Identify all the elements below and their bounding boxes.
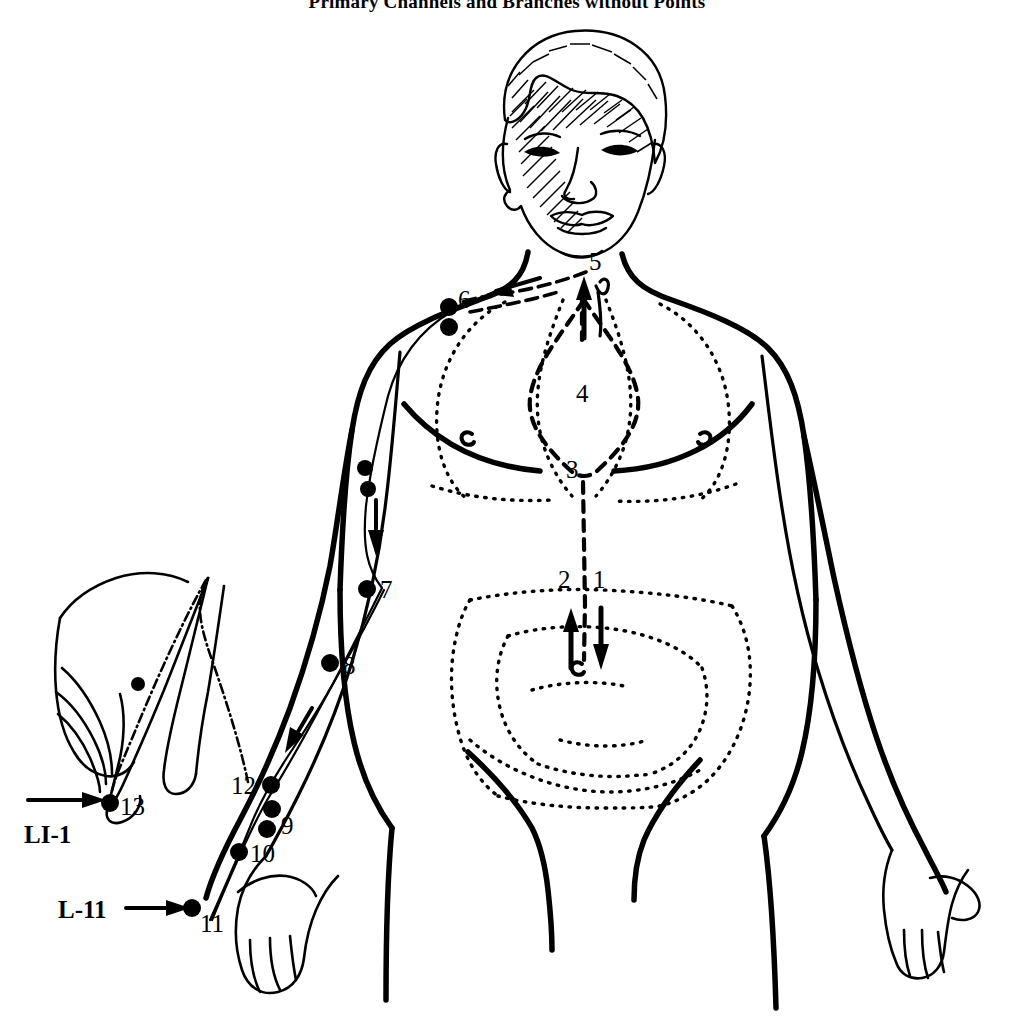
organs-group	[432, 294, 750, 808]
left-nipple	[462, 432, 474, 444]
small-intestine-coil-5	[532, 683, 624, 690]
point-dot-7	[358, 580, 376, 598]
label-number-6: 6	[458, 286, 471, 313]
arrows-group	[28, 272, 609, 916]
label-number-4: 4	[576, 380, 589, 407]
label-number-2: 2	[558, 566, 571, 593]
inset-middle-finger	[164, 578, 209, 794]
label-number-9: 9	[281, 812, 294, 839]
left-eyebrow	[525, 133, 560, 139]
label-number-7: 7	[380, 576, 393, 603]
torso-right-outline	[622, 254, 816, 600]
right-hand-group	[883, 850, 979, 978]
point-dot-6b	[440, 318, 458, 336]
lower-abdomen-dotted	[470, 740, 700, 792]
point-dot-arm-2	[360, 481, 376, 497]
point-dot-12	[262, 776, 280, 794]
nostrils	[562, 182, 596, 203]
right-hand-outline	[883, 850, 968, 978]
trachea-line	[598, 292, 601, 336]
arrow-abdomen-down	[593, 608, 609, 670]
anatomical-figure: 1 2 3 4 5 6 7 8 9 10 11 12 13 LI-1 L-11	[0, 0, 1014, 1024]
right-chest-dotted	[660, 304, 729, 500]
left-hand-group	[236, 856, 338, 993]
arrow-li1-callout	[28, 792, 106, 808]
callout-l11-label: L-11	[58, 896, 107, 923]
right-arm-outer	[804, 436, 946, 892]
inset-finger-5	[58, 714, 100, 792]
branch-to-hand-inset	[200, 578, 248, 782]
right-finger-2	[922, 930, 928, 978]
diaphragm-line	[432, 486, 552, 500]
head-group	[495, 31, 666, 258]
lower-lip	[558, 228, 606, 234]
inset-hand-back	[60, 573, 188, 618]
small-intestine-coil-2	[497, 636, 538, 764]
right-eye	[601, 145, 638, 156]
body-outline-group	[206, 252, 980, 1008]
label-number-11: 11	[200, 910, 224, 937]
nose	[564, 148, 578, 199]
right-finger-1	[904, 930, 910, 976]
inset-finger-4	[56, 692, 106, 784]
small-intestine-coil-4	[538, 764, 650, 777]
right-nipple	[698, 432, 710, 444]
left-leg-outline	[386, 828, 392, 1000]
callout-li1-label: LI-1	[24, 821, 71, 848]
right-arm-inner	[762, 356, 892, 850]
label-number-12: 12	[231, 772, 256, 799]
left-finger-2	[270, 938, 280, 990]
callouts-group: LI-1 L-11	[24, 821, 107, 923]
left-finger-3	[290, 936, 296, 980]
figure-svg: 1 2 3 4 5 6 7 8 9 10 11 12 13 LI-1 L-11	[0, 0, 1014, 1024]
large-intestine-bottom	[498, 796, 660, 808]
label-number-8: 8	[343, 652, 356, 679]
point-dot-9	[258, 820, 276, 838]
point-dot-6a	[440, 298, 458, 316]
point-dot-13-mid	[131, 677, 145, 691]
acupoints-group	[101, 298, 458, 917]
arrow-l11-callout	[126, 900, 190, 916]
inset-finger-3	[62, 668, 112, 774]
label-number-3: 3	[566, 456, 579, 483]
point-dot-wrist-1	[263, 800, 281, 818]
hand-inset-group	[55, 573, 224, 823]
arrow-abdomen-up	[563, 608, 579, 668]
right-eyebrow	[601, 131, 640, 136]
label-number-5: 5	[589, 248, 602, 275]
torso-left-outline	[340, 252, 528, 590]
point-dot-arm-1	[357, 460, 373, 476]
point-dot-11	[183, 899, 201, 917]
right-leg-outline	[764, 836, 776, 1008]
diaphragm-line-right	[614, 484, 736, 501]
pectoral-line-right	[614, 404, 752, 471]
large-intestine-outline	[451, 600, 498, 796]
label-number-13: 13	[120, 793, 145, 820]
label-number-1: 1	[593, 566, 606, 593]
midline-channel-lower	[583, 482, 585, 660]
label-number-10: 10	[250, 840, 275, 867]
point-dot-13	[101, 794, 119, 812]
small-intestine-coil-6	[560, 740, 648, 746]
groin-right	[634, 760, 700, 900]
pectoral-line	[404, 404, 540, 471]
point-dot-8	[321, 654, 339, 672]
lung-primary-channel	[212, 312, 451, 920]
point-dot-10	[230, 843, 248, 861]
